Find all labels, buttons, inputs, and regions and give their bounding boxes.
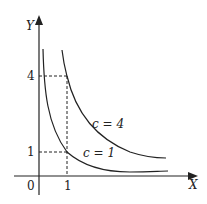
y-axis-label: Y <box>26 19 35 33</box>
curve-label-c1: c = 1 <box>83 146 115 160</box>
origin-label: 0 <box>27 179 35 193</box>
curve-c4 <box>62 50 166 158</box>
y-tick-4: 4 <box>27 69 35 83</box>
y-axis-arrow-icon <box>35 15 43 25</box>
curve-label-c4: c = 4 <box>92 117 124 131</box>
y-tick-1: 1 <box>27 145 35 159</box>
x-axis-label: X <box>188 178 198 192</box>
x-tick-1: 1 <box>64 179 72 193</box>
hyperbola-diagram: Y X 0 1 4 1 c = 4 c = 1 <box>0 0 207 204</box>
